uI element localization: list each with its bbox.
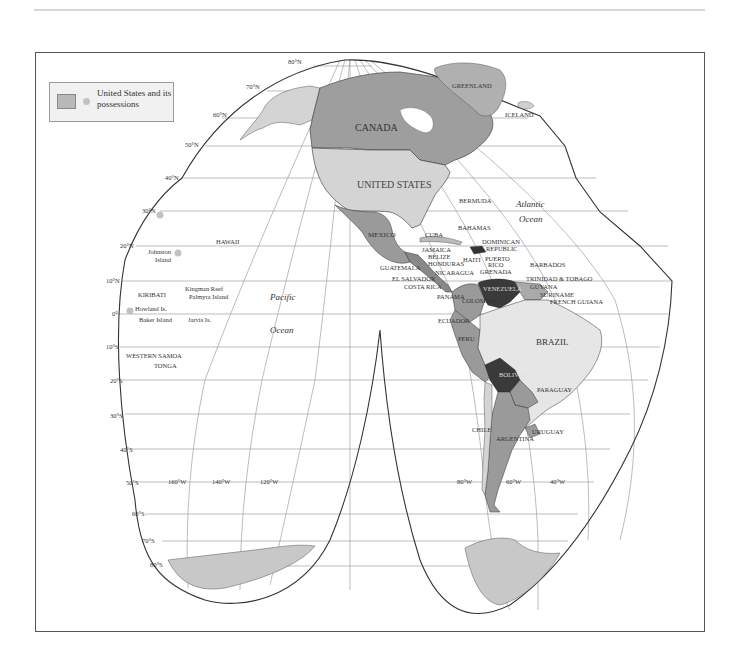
svg-text:ARGENTINA: ARGENTINA [496, 435, 534, 442]
svg-text:JAMAICA: JAMAICA [422, 246, 451, 253]
svg-text:CUBA: CUBA [425, 231, 443, 238]
svg-text:Atlantic: Atlantic [515, 199, 545, 209]
iceland [518, 102, 534, 109]
antarctica-right [465, 538, 560, 605]
legend: United States and its possessions [49, 82, 174, 122]
svg-text:UNITED STATES: UNITED STATES [357, 179, 431, 190]
svg-text:HAWAII: HAWAII [216, 238, 239, 245]
svg-text:Island: Island [155, 256, 172, 263]
svg-text:GREENLAND: GREENLAND [452, 82, 492, 89]
johnston-dot [175, 250, 182, 257]
svg-text:FRENCH GUIANA: FRENCH GUIANA [550, 298, 603, 305]
svg-text:SURINAME: SURINAME [540, 291, 574, 298]
svg-text:BOLIVIA: BOLIVIA [499, 371, 526, 378]
svg-text:Jarvis Is.: Jarvis Is. [188, 316, 211, 323]
svg-text:140°W: 140°W [212, 478, 231, 485]
svg-text:Palmyra Island: Palmyra Island [189, 293, 229, 300]
svg-text:50°N: 50°N [185, 141, 199, 148]
island-labels: HAWAII Johnston Island Kingman Reef Palm… [126, 238, 239, 369]
svg-text:160°W: 160°W [168, 478, 187, 485]
svg-text:60°S: 60°S [132, 510, 145, 517]
svg-text:10°S: 10°S [106, 343, 119, 350]
svg-text:BERMUDA: BERMUDA [459, 197, 492, 204]
svg-text:Kingman Reef: Kingman Reef [185, 285, 224, 292]
svg-text:Ocean: Ocean [270, 325, 294, 335]
svg-text:PARAGUAY: PARAGUAY [537, 386, 572, 393]
svg-text:CHILE: CHILE [472, 426, 491, 433]
svg-text:GUATEMALA: GUATEMALA [380, 264, 421, 271]
svg-text:30°S: 30°S [110, 412, 123, 419]
svg-text:20°N: 20°N [120, 242, 134, 249]
svg-text:Johnston: Johnston [148, 248, 172, 255]
midway-dot [157, 212, 164, 219]
svg-text:30°N: 30°N [142, 207, 156, 214]
svg-text:TRINIDAD & TOBAGO: TRINIDAD & TOBAGO [526, 275, 593, 282]
latitude-labels: 80°N 70°N 60°N 50°N 40°N 30°N 20°N 10°N … [106, 58, 302, 568]
svg-text:RICO: RICO [488, 261, 504, 268]
longitude-labels: 160°W 140°W 120°W 80°W 60°W 40°W [168, 478, 566, 485]
svg-text:40°N: 40°N [165, 174, 179, 181]
svg-text:80°W: 80°W [457, 478, 473, 485]
svg-text:GUYANA: GUYANA [530, 283, 558, 290]
svg-text:PANAMA: PANAMA [437, 293, 465, 300]
svg-text:GRENADA: GRENADA [480, 268, 512, 275]
svg-text:40°S: 40°S [120, 446, 133, 453]
howland-dot [127, 308, 134, 315]
svg-text:80°N: 80°N [288, 58, 302, 65]
svg-text:BRAZIL: BRAZIL [536, 337, 569, 347]
svg-text:70°N: 70°N [246, 83, 260, 90]
svg-text:60°N: 60°N [213, 111, 227, 118]
svg-text:KIRIBATI: KIRIBATI [138, 291, 166, 298]
svg-text:COSTA RICA: COSTA RICA [404, 283, 442, 290]
svg-text:HAITI: HAITI [463, 256, 481, 263]
svg-text:BARBADOS: BARBADOS [530, 261, 566, 268]
svg-text:PERU: PERU [458, 335, 475, 342]
svg-text:20°S: 20°S [110, 377, 123, 384]
svg-text:TONGA: TONGA [154, 362, 177, 369]
svg-text:COLOMBIA: COLOMBIA [462, 297, 497, 304]
svg-text:BELIZE: BELIZE [428, 253, 450, 260]
svg-text:VENEZUELA: VENEZUELA [483, 285, 522, 292]
svg-text:WESTERN SAMOA: WESTERN SAMOA [126, 352, 182, 359]
svg-text:10°N: 10°N [106, 277, 120, 284]
svg-text:ICELAND: ICELAND [505, 111, 534, 118]
svg-text:DOMINICAN: DOMINICAN [482, 238, 520, 245]
svg-text:MEXICO: MEXICO [368, 231, 396, 239]
svg-text:40°W: 40°W [550, 478, 566, 485]
svg-text:120°W: 120°W [260, 478, 279, 485]
hispaniola [470, 246, 486, 254]
svg-text:EL SALVADOR: EL SALVADOR [392, 275, 436, 282]
svg-text:URUGUAY: URUGUAY [532, 428, 564, 435]
svg-text:HONDURAS: HONDURAS [428, 260, 465, 267]
legend-swatch [57, 94, 76, 109]
svg-text:ECUADOR: ECUADOR [438, 317, 470, 324]
svg-text:80°S: 80°S [150, 561, 163, 568]
svg-text:REPUBLIC: REPUBLIC [486, 245, 517, 252]
svg-text:70°S: 70°S [142, 537, 155, 544]
svg-text:CANADA: CANADA [355, 122, 399, 133]
svg-text:Baker Island: Baker Island [139, 316, 173, 323]
svg-text:Ocean: Ocean [519, 214, 543, 224]
svg-text:Pacific: Pacific [269, 292, 296, 302]
svg-text:50°S: 50°S [126, 479, 139, 486]
svg-text:NICARAGUA: NICARAGUA [435, 269, 474, 276]
svg-text:BAHAMAS: BAHAMAS [458, 224, 491, 231]
svg-text:60°W: 60°W [506, 478, 522, 485]
svg-text:0°: 0° [112, 310, 118, 317]
svg-text:Howland Is.: Howland Is. [135, 305, 167, 312]
legend-text: United States and its possessions [97, 88, 175, 110]
legend-dot [83, 98, 90, 105]
antarctica-left [168, 545, 315, 589]
